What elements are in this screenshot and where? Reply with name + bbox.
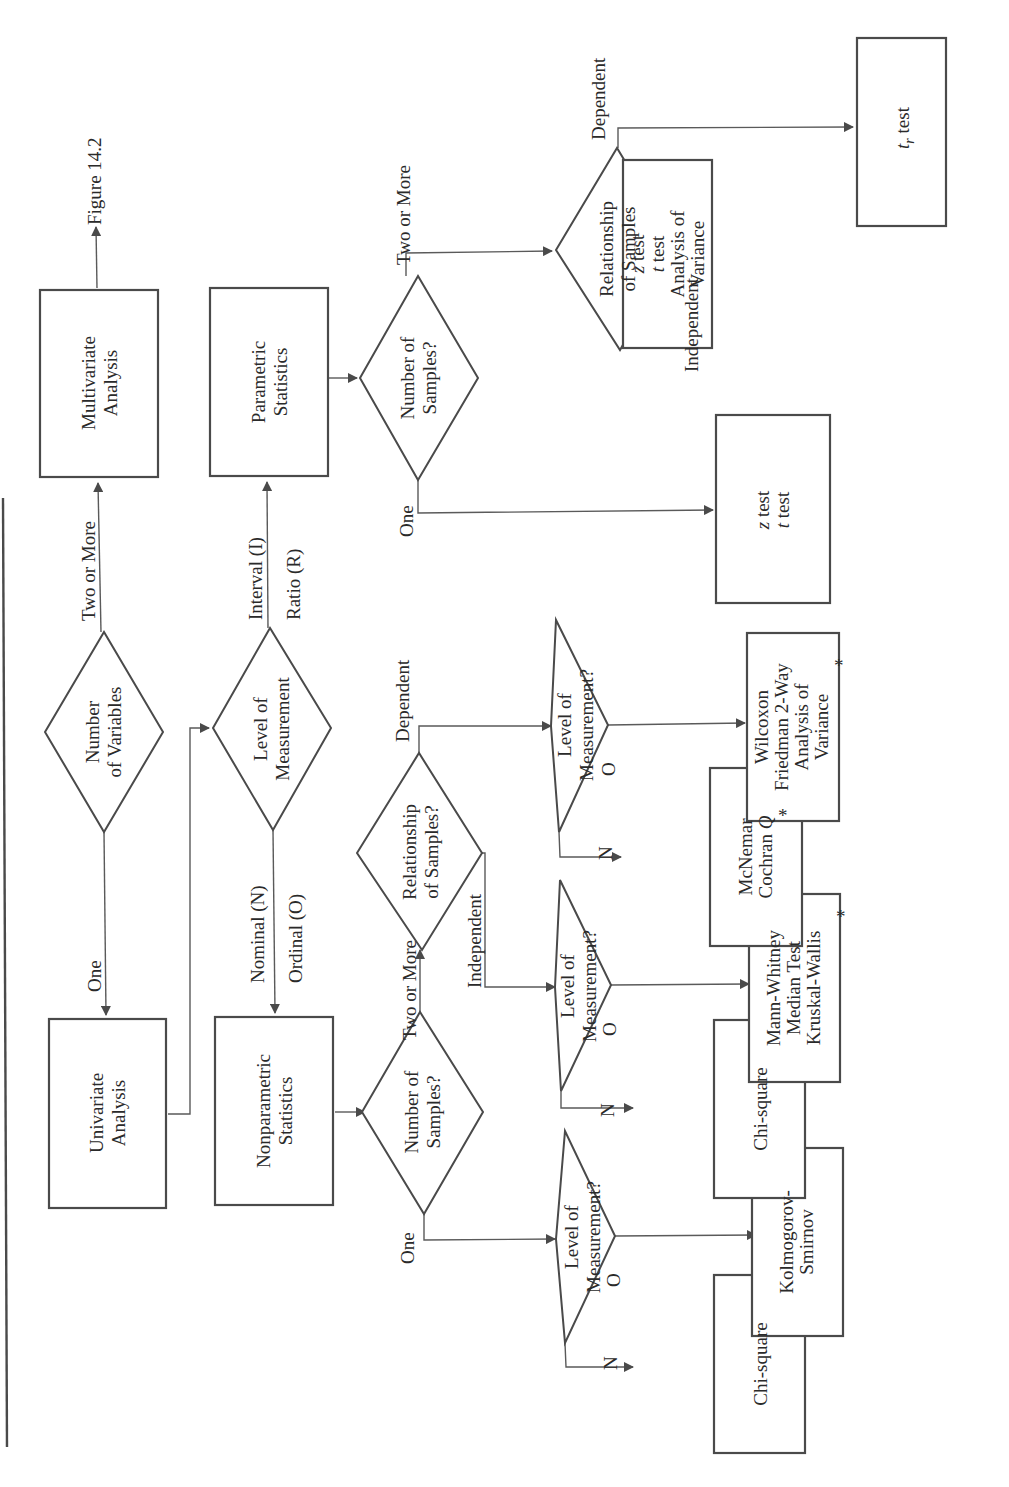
svg-text:Level of: Level of xyxy=(554,692,575,757)
figure-14-2-link: Figure 14.2 xyxy=(84,137,105,225)
svg-text:Chi-square: Chi-square xyxy=(750,1322,771,1405)
svg-text:Chi-square: Chi-square xyxy=(750,1067,771,1150)
edge-np-one xyxy=(424,1214,555,1240)
footnote-asterisk-mcnemar: * xyxy=(778,805,788,826)
t-test-line: t test xyxy=(772,491,793,528)
label-mann-whitney: Mann-Whitney Median Test Kruskal-Wallis xyxy=(763,929,824,1046)
flowchart: Number of Variables Multivariate Analysi… xyxy=(0,0,1009,1487)
edge-label-p-dependent: Dependent xyxy=(588,57,609,140)
svg-text:Nonparametric: Nonparametric xyxy=(253,1054,274,1168)
svg-text:Measurement?: Measurement? xyxy=(579,930,600,1042)
edge-label-one-o: O xyxy=(603,1273,624,1287)
svg-text:Analysis: Analysis xyxy=(100,350,121,417)
label-z-t-one-sample: z test t test xyxy=(752,490,793,530)
edge-p-dependent xyxy=(618,127,853,148)
label-univariate: Univariate Analysis xyxy=(86,1073,129,1153)
label-chi-square-one: Chi-square xyxy=(750,1322,771,1405)
svg-text:Mann-Whitney: Mann-Whitney xyxy=(763,929,784,1046)
label-np-relationship: Relationship of Samples? xyxy=(399,804,442,900)
svg-text:Statistics: Statistics xyxy=(275,1077,296,1146)
footnote-asterisk-mann-whitney: * xyxy=(836,906,846,927)
svg-text:of Variables: of Variables xyxy=(104,687,125,778)
label-chi-square-independent: Chi-square xyxy=(750,1067,771,1150)
edge-label-one-n: N xyxy=(600,1356,621,1370)
svg-text:Friedman 2-Way: Friedman 2-Way xyxy=(771,663,792,791)
edge-label-np-two-or-more: Two or More xyxy=(399,940,420,1040)
svg-text:McNemar: McNemar xyxy=(735,818,756,896)
edge-univariate-level xyxy=(168,728,209,1114)
footnote-asterisk-wilcoxon: * xyxy=(834,655,844,676)
label-p-number-of-samples: Number of Samples? xyxy=(397,336,440,420)
box-multivariate xyxy=(40,290,158,477)
svg-text:Variance: Variance xyxy=(811,694,832,760)
svg-text:Number of: Number of xyxy=(397,336,418,420)
t-test-line: t test xyxy=(647,235,668,272)
svg-text:Measurement: Measurement xyxy=(272,677,293,781)
edge-label-dep-o: O xyxy=(598,762,619,776)
svg-text:Relationship: Relationship xyxy=(399,804,420,900)
edge-label-interval: Interval (I) xyxy=(245,537,267,620)
edge-label-ratio: Ratio (R) xyxy=(283,549,305,620)
svg-text:Smirnov: Smirnov xyxy=(796,1209,817,1275)
box-nonparametric xyxy=(215,1017,333,1205)
svg-text:Samples?: Samples? xyxy=(423,1076,444,1149)
edge-p-two-more xyxy=(406,251,552,276)
svg-text:Analysis: Analysis xyxy=(108,1080,129,1147)
edge-label-one: One xyxy=(84,960,105,992)
svg-text:Level of: Level of xyxy=(250,696,271,761)
edge-label-p-independent: Independent xyxy=(681,277,702,372)
z-test-line: z test xyxy=(627,234,648,274)
edge-np-dependent xyxy=(419,726,551,753)
svg-text:Number of: Number of xyxy=(401,1070,422,1154)
box-parametric xyxy=(210,288,328,476)
svg-text:Number: Number xyxy=(82,700,103,763)
edge-label-np-independent: Independent xyxy=(464,893,485,988)
edge-indep-o xyxy=(611,984,749,985)
svg-text:Relationship: Relationship xyxy=(596,201,617,297)
edge-label-indep-n: N xyxy=(597,1103,618,1117)
edge-label-dep-n: N xyxy=(595,846,616,860)
svg-text:Parametric: Parametric xyxy=(248,341,269,423)
svg-text:Multivariate: Multivariate xyxy=(78,336,99,430)
edge-label-p-two-or-more: Two or More xyxy=(393,165,414,265)
label-parametric: Parametric Statistics xyxy=(248,341,291,423)
edge-level-parametric xyxy=(267,482,268,628)
svg-text:Measurement?: Measurement? xyxy=(583,1181,604,1293)
svg-text:Statistics: Statistics xyxy=(270,348,291,417)
svg-text:Samples?: Samples? xyxy=(419,342,440,415)
label-mcnemar-cochran: McNemar Cochran Q xyxy=(735,815,776,898)
svg-text:Univariate: Univariate xyxy=(86,1073,107,1153)
svg-text:Kolmogorov-: Kolmogorov- xyxy=(776,1190,797,1293)
z-test-line: z test xyxy=(752,490,773,530)
svg-text:Wilcoxon: Wilcoxon xyxy=(751,689,772,764)
cochran-q-label: Cochran Q xyxy=(755,815,776,898)
edge-one-o xyxy=(615,1235,756,1236)
label-np-number-of-samples: Number of Samples? xyxy=(401,1070,444,1154)
edge-label-ordinal: Ordinal (O) xyxy=(285,894,307,983)
svg-text:of Samples?: of Samples? xyxy=(421,805,442,898)
edge-label-nominal: Nominal (N) xyxy=(247,885,269,983)
svg-text:Level of: Level of xyxy=(561,1204,582,1269)
edge-label-p-one: One xyxy=(396,505,417,537)
edge-dep-o xyxy=(608,723,745,725)
page-rule xyxy=(3,498,7,1447)
svg-text:Variance: Variance xyxy=(687,221,708,287)
edge-label-np-one: One xyxy=(397,1232,418,1264)
edge-label-two-or-more: Two or More xyxy=(78,521,99,621)
svg-text:Median Test: Median Test xyxy=(783,940,804,1035)
edge-label-np-dependent: Dependent xyxy=(392,659,413,742)
edge-level-nonparametric xyxy=(273,830,275,1013)
svg-text:Level of: Level of xyxy=(557,953,578,1018)
label-multivariate: Multivariate Analysis xyxy=(78,336,121,430)
svg-text:Analysis of: Analysis of xyxy=(791,683,812,771)
edge-np-independent xyxy=(482,853,555,987)
svg-text:Kruskal-Wallis: Kruskal-Wallis xyxy=(803,931,824,1046)
edge-p-one xyxy=(418,480,713,513)
edge-label-indep-o: O xyxy=(599,1022,620,1036)
edge-to-figure xyxy=(96,227,97,288)
svg-text:Measurement?: Measurement? xyxy=(576,669,597,781)
edge-one-n xyxy=(565,1343,633,1367)
